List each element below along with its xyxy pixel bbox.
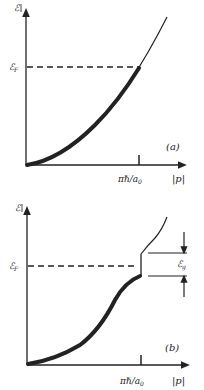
panel-a: ℰ ℰF (a) πℏ/a0 |p| (9, 3, 185, 185)
y-axis-label: ℰ (15, 203, 22, 213)
x-axis-label: |p| (172, 375, 185, 387)
occupied-states-curve (27, 68, 139, 165)
fermi-energy-label: ℰF (9, 62, 19, 73)
panel-label: (b) (165, 342, 179, 353)
gap-energy-label: ℰg (177, 259, 186, 271)
zone-boundary-label: πℏ/a0 (117, 174, 142, 185)
dispersion-curve (27, 17, 167, 165)
upper-band-curve (141, 217, 167, 254)
panel-b: ℰ ℰF ℰg (b) πℏ/a0 |p| (9, 203, 187, 387)
x-axis-label: |p| (172, 173, 185, 185)
lower-band-curve (28, 276, 140, 364)
panel-label: (a) (166, 141, 180, 152)
fermi-energy-label: ℰF (9, 261, 19, 272)
band-diagram-figure: ℰ ℰF (a) πℏ/a0 |p| ℰ ℰF ℰg (b) πℏ/a0 |p| (0, 0, 204, 390)
zone-boundary-label: πℏ/a0 (119, 376, 144, 387)
y-axis-label: ℰ (14, 3, 21, 13)
